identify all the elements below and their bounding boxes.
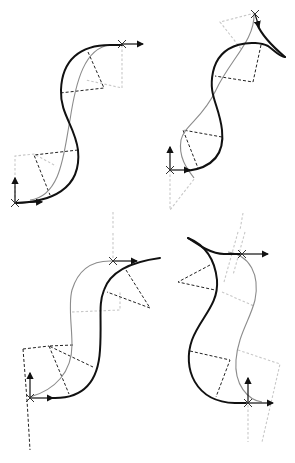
reference-curve bbox=[228, 252, 262, 402]
panel-bottom-left bbox=[23, 233, 160, 450]
reference-curve bbox=[180, 14, 254, 178]
panel-bottom-right bbox=[178, 232, 280, 442]
deformed-curve bbox=[187, 43, 285, 171]
panel-top-left bbox=[11, 40, 143, 230]
construction-line-dark bbox=[60, 52, 104, 93]
construction-line-dark bbox=[178, 265, 215, 290]
cusp-tail bbox=[257, 24, 285, 57]
construction-line-light bbox=[224, 232, 238, 282]
frame-origin-x-marker bbox=[251, 10, 259, 18]
deformed-curve bbox=[15, 45, 122, 203]
construction-line-dark bbox=[190, 351, 230, 397]
construction-line-light bbox=[86, 45, 122, 88]
figure bbox=[0, 0, 295, 463]
construction-line-light bbox=[72, 292, 120, 312]
panel-top-right bbox=[166, 10, 285, 230]
construction-line-dark bbox=[215, 45, 261, 82]
construction-line-dark bbox=[183, 130, 222, 168]
construction-line-light bbox=[170, 170, 195, 210]
construction-line-light bbox=[222, 292, 254, 306]
deformed-curve bbox=[50, 258, 160, 398]
construction-line-dark bbox=[23, 346, 49, 349]
construction-line-light bbox=[238, 350, 280, 442]
construction-line-light bbox=[240, 213, 243, 230]
construction-line-dark bbox=[34, 150, 78, 195]
